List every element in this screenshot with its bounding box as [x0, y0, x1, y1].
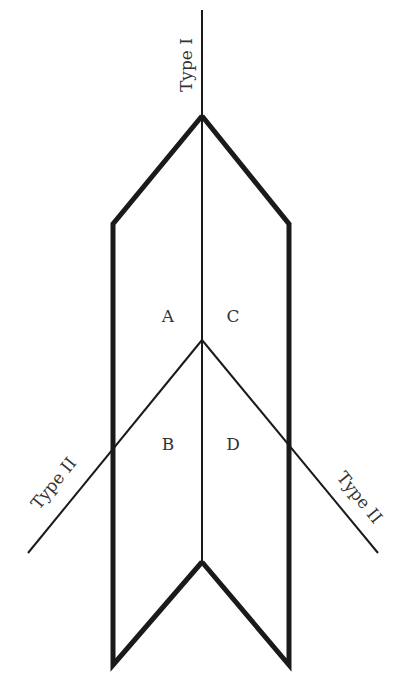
region-c-label: C: [226, 306, 239, 326]
type-diagram: Type I Type II Type II A C B D: [0, 0, 405, 687]
region-b-label: B: [162, 434, 175, 454]
region-a-label: A: [161, 306, 175, 326]
type-ii-right-label: Type II: [333, 467, 387, 527]
outer-shape-left: [113, 116, 202, 665]
type-i-label: Type I: [176, 38, 196, 92]
type-ii-left-label: Type II: [26, 453, 80, 513]
region-d-label: D: [226, 434, 240, 454]
outer-shape-right: [202, 116, 289, 665]
